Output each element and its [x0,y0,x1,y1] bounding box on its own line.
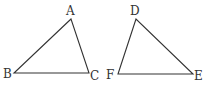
triangle-abc [14,19,89,73]
vertex-label-c: C [90,69,99,83]
triangle-diagram: A B C D F E [0,0,208,85]
vertex-label-f: F [106,68,114,82]
vertex-label-a: A [65,4,75,18]
vertex-label-e: E [194,69,203,83]
triangle-def [118,19,193,74]
vertex-label-b: B [3,67,12,81]
vertex-label-d: D [130,4,140,18]
